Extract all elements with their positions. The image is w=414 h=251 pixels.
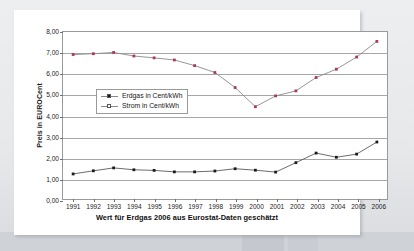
- x-axis-tick: [155, 199, 156, 202]
- x-axis-tick: [114, 199, 115, 202]
- x-axis-label: 2000: [249, 204, 263, 211]
- y-axis-label: 6,00: [46, 71, 59, 78]
- data-point-marker: [173, 59, 176, 62]
- data-point-marker: [234, 167, 237, 170]
- data-point-marker: [315, 76, 318, 79]
- plot-area: 0,001,002,003,004,005,006,007,008,00 199…: [62, 31, 388, 200]
- x-axis-label: 2001: [270, 204, 284, 211]
- x-axis-tick: [338, 199, 339, 202]
- x-axis-tick: [216, 199, 217, 202]
- y-axis-label: 3,00: [46, 134, 59, 141]
- data-point-marker: [254, 105, 257, 108]
- x-axis-label: 2003: [310, 204, 324, 211]
- data-point-marker: [153, 56, 156, 59]
- data-point-marker: [112, 167, 115, 170]
- x-axis-tick: [257, 199, 258, 202]
- x-axis-tick: [358, 199, 359, 202]
- x-axis-tick: [175, 199, 176, 202]
- x-axis-tick: [195, 199, 196, 202]
- y-axis-title: Preis in EUROCent: [33, 31, 45, 200]
- data-point-marker: [72, 173, 75, 176]
- data-point-marker: [254, 169, 257, 172]
- x-axis-label: 2004: [331, 204, 345, 211]
- y-axis-label: 8,00: [46, 29, 59, 36]
- x-axis-tick: [236, 199, 237, 202]
- y-axis-title-label: Preis in EUROCent: [36, 83, 43, 148]
- y-axis-label: 7,00: [46, 50, 59, 57]
- data-point-marker: [173, 170, 176, 173]
- y-axis-label: 4,00: [46, 113, 59, 120]
- data-point-marker: [274, 171, 277, 174]
- data-point-marker: [132, 55, 135, 58]
- legend-item-label: Erdgas in Cent/kWh: [122, 93, 182, 100]
- series-layer: [63, 32, 387, 199]
- x-axis-label: 1996: [168, 204, 182, 211]
- x-axis-label: 2002: [290, 204, 304, 211]
- data-point-marker: [92, 169, 95, 172]
- x-axis-tick: [94, 199, 95, 202]
- x-axis-tick: [379, 199, 380, 202]
- data-point-marker: [355, 56, 358, 59]
- x-axis-tick: [73, 199, 74, 202]
- data-point-marker: [234, 86, 237, 89]
- data-point-marker: [294, 161, 297, 164]
- data-point-marker: [193, 170, 196, 173]
- x-axis-tick: [134, 199, 135, 202]
- data-point-marker: [112, 51, 115, 54]
- data-point-marker: [72, 53, 75, 56]
- x-axis-label: 1995: [147, 204, 161, 211]
- x-axis-label: 1997: [188, 204, 202, 211]
- data-point-marker: [375, 40, 378, 43]
- data-point-marker: [153, 169, 156, 172]
- data-point-marker: [355, 153, 358, 156]
- y-axis-label: 1,00: [46, 177, 59, 184]
- y-axis-label: 0,00: [46, 198, 59, 205]
- data-point-marker: [375, 141, 378, 144]
- data-point-marker: [213, 170, 216, 173]
- legend-marker-icon: [101, 103, 118, 110]
- data-point-marker: [315, 152, 318, 155]
- y-axis-label: 2,00: [46, 155, 59, 162]
- data-point-marker: [335, 156, 338, 159]
- data-point-marker: [335, 68, 338, 71]
- legend-marker-icon: [101, 93, 118, 100]
- chart-legend: Erdgas in Cent/kWhStrom in Cent/kWh: [96, 89, 188, 114]
- x-axis-label: 2006: [372, 204, 386, 211]
- legend-item-label: Strom in Cent/kWh: [122, 103, 179, 110]
- legend-item: Strom in Cent/kWh: [101, 103, 182, 110]
- legend-item: Erdgas in Cent/kWh: [101, 93, 182, 100]
- x-axis-label: 1993: [107, 204, 121, 211]
- x-axis-tick: [318, 199, 319, 202]
- y-axis-label: 5,00: [46, 92, 59, 99]
- y-axis-tick: [60, 201, 63, 202]
- x-axis-tick: [297, 199, 298, 202]
- x-axis-tick: [277, 199, 278, 202]
- data-point-marker: [294, 89, 297, 92]
- data-point-marker: [92, 52, 95, 55]
- data-point-marker: [193, 64, 196, 67]
- chart-page: Preis in EUROCent 0,001,002,003,004,005,…: [0, 0, 414, 251]
- chart-caption: Wert für Erdgas 2006 aus Eurostat-Daten …: [14, 213, 360, 222]
- x-axis-label: 1991: [66, 204, 80, 211]
- x-axis-label: 1992: [86, 204, 100, 211]
- data-point-marker: [213, 71, 216, 74]
- x-axis-label: 1999: [229, 204, 243, 211]
- x-axis-label: 1994: [127, 204, 141, 211]
- x-axis-label: 1998: [209, 204, 223, 211]
- x-axis-label: 2005: [351, 204, 365, 211]
- data-point-marker: [274, 94, 277, 97]
- series-line: [73, 142, 377, 174]
- data-point-marker: [132, 168, 135, 171]
